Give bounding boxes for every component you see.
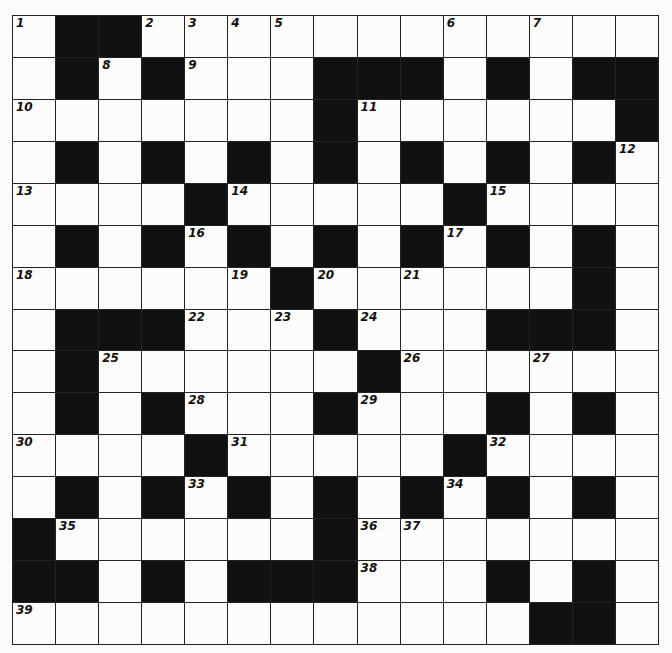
crossword-cell[interactable] [530, 477, 572, 518]
crossword-cell[interactable] [401, 561, 443, 602]
crossword-cell[interactable] [99, 519, 141, 560]
crossword-cell[interactable] [13, 142, 55, 183]
crossword-cell[interactable]: 1 [13, 16, 55, 57]
crossword-cell[interactable]: 25 [99, 351, 141, 392]
crossword-cell[interactable]: 37 [401, 519, 443, 560]
crossword-cell[interactable] [487, 351, 529, 392]
crossword-cell[interactable] [228, 519, 270, 560]
crossword-cell[interactable] [314, 351, 356, 392]
crossword-cell[interactable] [142, 603, 184, 644]
crossword-cell[interactable] [530, 226, 572, 267]
crossword-cell[interactable]: 16 [185, 226, 227, 267]
crossword-cell[interactable] [185, 100, 227, 141]
crossword-cell[interactable] [444, 561, 486, 602]
crossword-cell[interactable] [487, 16, 529, 57]
crossword-cell[interactable] [13, 310, 55, 351]
crossword-cell[interactable] [444, 142, 486, 183]
crossword-cell[interactable] [444, 351, 486, 392]
crossword-cell[interactable]: 5 [271, 16, 313, 57]
crossword-cell[interactable] [99, 268, 141, 309]
crossword-cell[interactable]: 14 [228, 184, 270, 225]
crossword-cell[interactable] [271, 184, 313, 225]
crossword-cell[interactable] [401, 435, 443, 476]
crossword-cell[interactable] [401, 16, 443, 57]
crossword-cell[interactable] [56, 184, 98, 225]
crossword-cell[interactable] [616, 603, 658, 644]
crossword-cell[interactable] [13, 393, 55, 434]
crossword-cell[interactable]: 12 [616, 142, 658, 183]
crossword-cell[interactable]: 7 [530, 16, 572, 57]
crossword-cell[interactable] [616, 184, 658, 225]
crossword-cell[interactable] [487, 603, 529, 644]
crossword-cell[interactable] [573, 184, 615, 225]
crossword-cell[interactable] [530, 100, 572, 141]
crossword-cell[interactable] [271, 58, 313, 99]
crossword-cell[interactable]: 10 [13, 100, 55, 141]
crossword-cell[interactable]: 8 [99, 58, 141, 99]
crossword-cell[interactable] [530, 561, 572, 602]
crossword-cell[interactable]: 2 [142, 16, 184, 57]
crossword-cell[interactable] [99, 100, 141, 141]
crossword-cell[interactable] [99, 184, 141, 225]
crossword-cell[interactable] [271, 477, 313, 518]
crossword-cell[interactable] [401, 310, 443, 351]
crossword-cell[interactable] [616, 435, 658, 476]
crossword-cell[interactable] [616, 16, 658, 57]
crossword-cell[interactable] [142, 268, 184, 309]
crossword-cell[interactable] [530, 268, 572, 309]
crossword-cell[interactable] [530, 435, 572, 476]
crossword-cell[interactable] [56, 268, 98, 309]
crossword-cell[interactable] [573, 435, 615, 476]
crossword-cell[interactable] [271, 519, 313, 560]
crossword-cell[interactable] [616, 226, 658, 267]
crossword-cell[interactable] [401, 603, 443, 644]
crossword-cell[interactable] [228, 100, 270, 141]
crossword-cell[interactable] [444, 393, 486, 434]
crossword-cell[interactable]: 39 [13, 603, 55, 644]
crossword-cell[interactable] [142, 351, 184, 392]
crossword-cell[interactable] [487, 519, 529, 560]
crossword-cell[interactable] [142, 184, 184, 225]
crossword-cell[interactable] [185, 603, 227, 644]
crossword-cell[interactable] [228, 58, 270, 99]
crossword-cell[interactable] [616, 351, 658, 392]
crossword-cell[interactable]: 13 [13, 184, 55, 225]
crossword-cell[interactable] [56, 603, 98, 644]
crossword-cell[interactable] [616, 268, 658, 309]
crossword-cell[interactable] [616, 393, 658, 434]
crossword-cell[interactable]: 32 [487, 435, 529, 476]
crossword-cell[interactable]: 22 [185, 310, 227, 351]
crossword-cell[interactable] [358, 184, 400, 225]
crossword-cell[interactable] [358, 16, 400, 57]
crossword-cell[interactable] [444, 310, 486, 351]
crossword-cell[interactable] [185, 519, 227, 560]
crossword-cell[interactable]: 23 [271, 310, 313, 351]
crossword-cell[interactable] [271, 603, 313, 644]
crossword-cell[interactable] [401, 100, 443, 141]
crossword-cell[interactable]: 38 [358, 561, 400, 602]
crossword-cell[interactable]: 33 [185, 477, 227, 518]
crossword-cell[interactable]: 36 [358, 519, 400, 560]
crossword-cell[interactable] [56, 100, 98, 141]
crossword-cell[interactable] [358, 142, 400, 183]
crossword-cell[interactable] [530, 58, 572, 99]
crossword-cell[interactable] [271, 142, 313, 183]
crossword-cell[interactable]: 18 [13, 268, 55, 309]
crossword-cell[interactable] [142, 100, 184, 141]
crossword-cell[interactable] [530, 393, 572, 434]
crossword-cell[interactable] [444, 100, 486, 141]
crossword-cell[interactable] [530, 142, 572, 183]
crossword-cell[interactable] [401, 184, 443, 225]
crossword-cell[interactable] [228, 603, 270, 644]
crossword-cell[interactable] [530, 184, 572, 225]
crossword-cell[interactable] [616, 477, 658, 518]
crossword-cell[interactable] [99, 477, 141, 518]
crossword-cell[interactable] [271, 100, 313, 141]
crossword-cell[interactable] [358, 477, 400, 518]
crossword-cell[interactable]: 9 [185, 58, 227, 99]
crossword-cell[interactable] [13, 477, 55, 518]
crossword-cell[interactable]: 26 [401, 351, 443, 392]
crossword-cell[interactable] [13, 58, 55, 99]
crossword-cell[interactable] [573, 16, 615, 57]
crossword-cell[interactable] [271, 435, 313, 476]
